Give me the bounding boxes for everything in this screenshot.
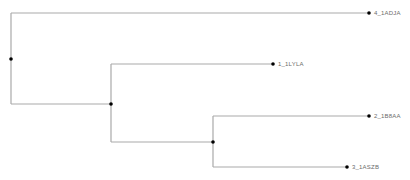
leaf-node-1-1lyla[interactable] [271, 62, 275, 66]
internal-node-n1[interactable] [109, 102, 113, 106]
leaf-label-4-1adja: 4_1ADJA [374, 9, 401, 17]
root-node[interactable] [9, 57, 13, 61]
tree-diagram [0, 0, 410, 180]
leaf-node-2-1b8aa[interactable] [367, 114, 371, 118]
leaf-label-3-1aszb: 3_1ASZB [352, 163, 379, 171]
internal-node-n2[interactable] [211, 140, 215, 144]
leaf-node-4-1adja[interactable] [367, 11, 371, 15]
leaf-node-3-1aszb[interactable] [345, 165, 349, 169]
leaf-label-2-1b8aa: 2_1B8AA [374, 112, 401, 120]
leaf-label-1-1lyla: 1_1LYLA [278, 60, 304, 68]
